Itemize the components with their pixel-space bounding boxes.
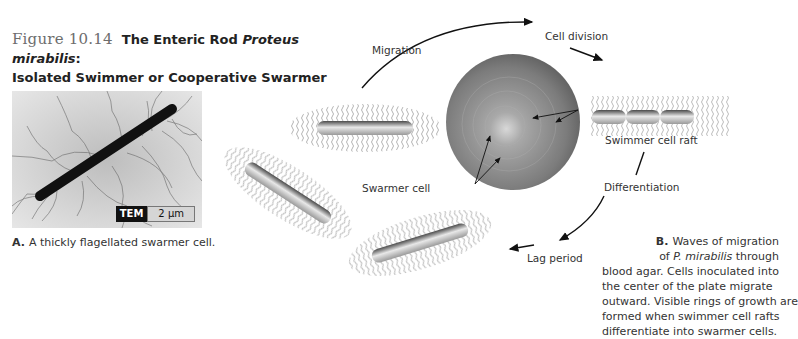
swarmer-cell-bottom <box>342 197 499 290</box>
caption-b-text1: Waves of migration <box>672 235 779 248</box>
caption-b-line5: outward. Visible rings of growth are <box>602 294 779 309</box>
caption-b-line2: of P. mirabilis through <box>614 249 779 264</box>
caption-b-line7: differentiate into swarmer cells. <box>602 324 779 339</box>
arrow-to-raft <box>570 48 602 60</box>
caption-b-species: P. mirabilis <box>673 250 732 263</box>
label-swimmer-cell-raft: Swimmer cell raft <box>605 134 698 146</box>
caption-b: B.Waves of migration of P. mirabilis thr… <box>614 234 779 339</box>
swarmer-cell-top <box>289 104 441 152</box>
caption-b-line3: blood agar. Cells inoculated into <box>602 264 779 279</box>
blood-agar-plate <box>446 54 580 190</box>
caption-b-line4: the center of the plate migrate <box>602 279 779 294</box>
swimmer-cell-raft <box>590 96 730 136</box>
arrow-lag <box>510 245 534 249</box>
label-swarmer-cell: Swarmer cell <box>362 182 430 194</box>
caption-b-through: through <box>732 250 779 263</box>
caption-b-line6: formed when swimmer cell rafts <box>602 309 779 324</box>
caption-b-line1: B.Waves of migration <box>614 234 779 249</box>
arrow-differentiation <box>560 196 604 240</box>
label-differentiation: Differentiation <box>604 181 679 193</box>
caption-b-letter: B. <box>656 235 669 248</box>
label-migration: Migration <box>372 44 422 56</box>
arrow-raft-to-diff <box>636 152 644 175</box>
label-cell-division: Cell division <box>545 30 608 42</box>
label-lag-period: Lag period <box>527 252 583 264</box>
caption-b-of: of <box>659 250 673 263</box>
